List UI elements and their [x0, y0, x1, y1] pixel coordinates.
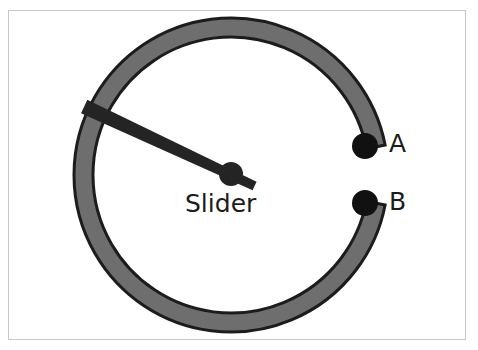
marker-b-label: B	[389, 189, 406, 214]
slider-needle[interactable]	[81, 100, 257, 190]
diagram-canvas: Slider A B	[0, 0, 478, 350]
marker-b-dot-icon[interactable]	[352, 190, 378, 216]
pivot-hub-icon[interactable]	[219, 162, 243, 186]
marker-a-dot-icon[interactable]	[352, 133, 378, 159]
slider-diagram	[0, 0, 478, 350]
slider-label: Slider	[185, 191, 256, 216]
marker-a-label: A	[389, 131, 406, 156]
